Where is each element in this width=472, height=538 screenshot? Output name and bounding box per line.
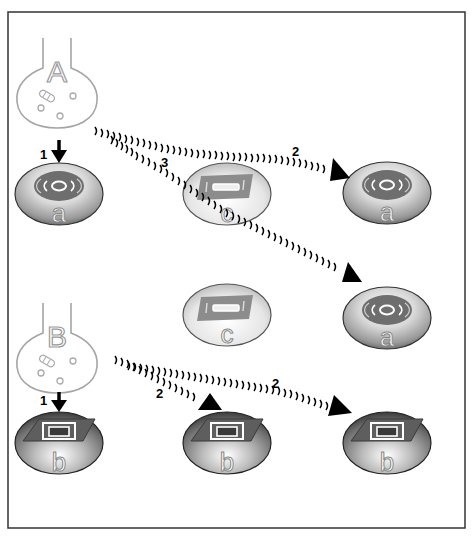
cell-label: a [52,198,67,228]
arrow-label: 3 [161,155,168,170]
cell-label: b [380,447,394,477]
arrow-label: 2 [156,386,163,401]
flask-label: A [47,55,67,88]
cell-label: c [221,319,234,349]
arrow-label: 2 [292,144,299,159]
cell-label: a [380,322,395,352]
diagram-canvas: A B a a a c c b b b 1 [0,0,472,538]
arrow-label: 1 [40,393,47,408]
cell-label: b [52,447,66,477]
cell-label: a [380,197,395,227]
arrow-label: 1 [40,147,47,162]
cell-label: b [220,447,234,477]
arrow-label: 2 [272,376,279,391]
flask-label: B [47,320,67,353]
